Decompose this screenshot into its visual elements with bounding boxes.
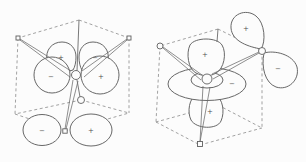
back-corner-atom-circle	[78, 97, 85, 104]
phase-sign: −	[275, 65, 281, 73]
phase-sign: +	[88, 127, 94, 135]
corner-atom-square	[127, 36, 131, 40]
phase-sign: −	[48, 73, 54, 81]
corner-atom-square	[63, 129, 67, 133]
phase-sign: −	[92, 54, 98, 62]
cube-edge	[218, 105, 262, 128]
cube-edge	[18, 20, 79, 38]
left-unit-cell: + − − + − +	[15, 20, 131, 146]
corner-atom-square	[16, 36, 20, 40]
cube-edge	[156, 122, 200, 145]
back-vertical-edge	[217, 29, 218, 42]
orbital-diagram-figure: + − − + − +	[0, 0, 306, 162]
phase-sign: +	[98, 73, 104, 81]
phase-sign: −	[39, 127, 45, 135]
phase-sign: +	[207, 108, 213, 116]
corner-atom-square	[198, 142, 203, 147]
corner-atom-circle	[157, 43, 163, 49]
phase-sign: +	[202, 51, 208, 59]
diagram-canvas: + − − + − +	[0, 0, 306, 162]
cube-edge	[15, 38, 18, 114]
corner-atom-circle	[259, 48, 266, 55]
phase-sign: +	[243, 25, 249, 33]
cube-edge	[200, 128, 262, 145]
back-vertical-edge	[77, 20, 79, 71]
cube-edge	[156, 46, 160, 122]
cube-edge	[79, 20, 129, 38]
cube-edge	[15, 100, 81, 114]
central-atom-circle	[72, 71, 81, 80]
right-unit-cell: + − + + −	[156, 12, 297, 146]
phase-sign: +	[58, 54, 64, 62]
cube-edge	[81, 100, 129, 113]
phase-sign: −	[229, 80, 235, 88]
central-atom-circle	[202, 74, 212, 84]
